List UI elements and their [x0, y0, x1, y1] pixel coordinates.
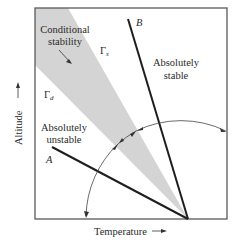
line-b [128, 19, 188, 219]
label-stable-line1: Absolutely [153, 57, 200, 68]
label-line-b: B [136, 17, 143, 28]
gamma-d-symbol: Γd [44, 89, 54, 102]
y-axis-label: Altitude [13, 110, 24, 145]
x-axis-label: Temperature [94, 226, 147, 237]
label-conditional-line2: stability [48, 36, 83, 47]
arrowhead-icon [161, 229, 167, 233]
label-line-a: A [45, 154, 53, 165]
label-unstable-line1: Absolutely [41, 122, 88, 133]
stability-diagram: Conditional stability Absolutely stable … [0, 0, 243, 242]
label-stable-line2: stable [164, 70, 189, 81]
gamma-s-symbol: Γs [100, 45, 109, 58]
line-a [52, 147, 188, 219]
arrowhead-icon [220, 128, 226, 132]
label-conditional-line1: Conditional [40, 24, 90, 35]
label-unstable-line2: unstable [47, 134, 82, 145]
arrowhead-icon [16, 82, 20, 88]
arc-stable [136, 121, 226, 131]
arrowhead-icon [84, 211, 89, 218]
